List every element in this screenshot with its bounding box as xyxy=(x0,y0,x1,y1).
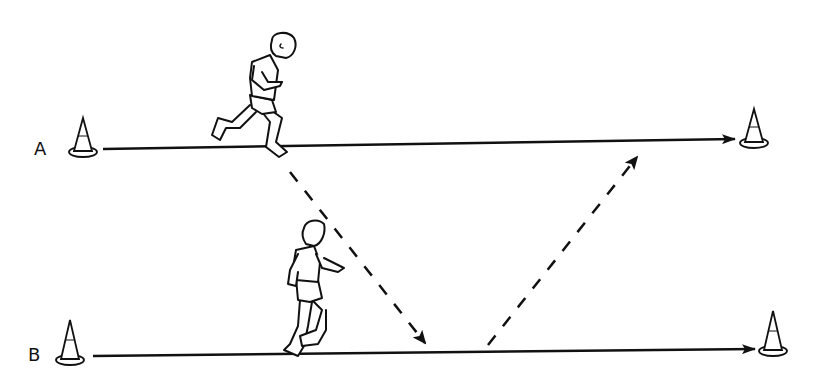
cone-icon xyxy=(56,320,84,365)
lane-a-line xyxy=(103,139,735,149)
pass-path-up xyxy=(488,157,637,345)
player-a-icon xyxy=(212,33,296,157)
player-b-icon xyxy=(284,221,344,356)
cone-icon xyxy=(759,311,787,356)
cone-icon xyxy=(69,118,97,157)
drill-diagram xyxy=(0,0,819,385)
cone-icon xyxy=(740,109,768,148)
lane-b-line xyxy=(93,349,755,356)
